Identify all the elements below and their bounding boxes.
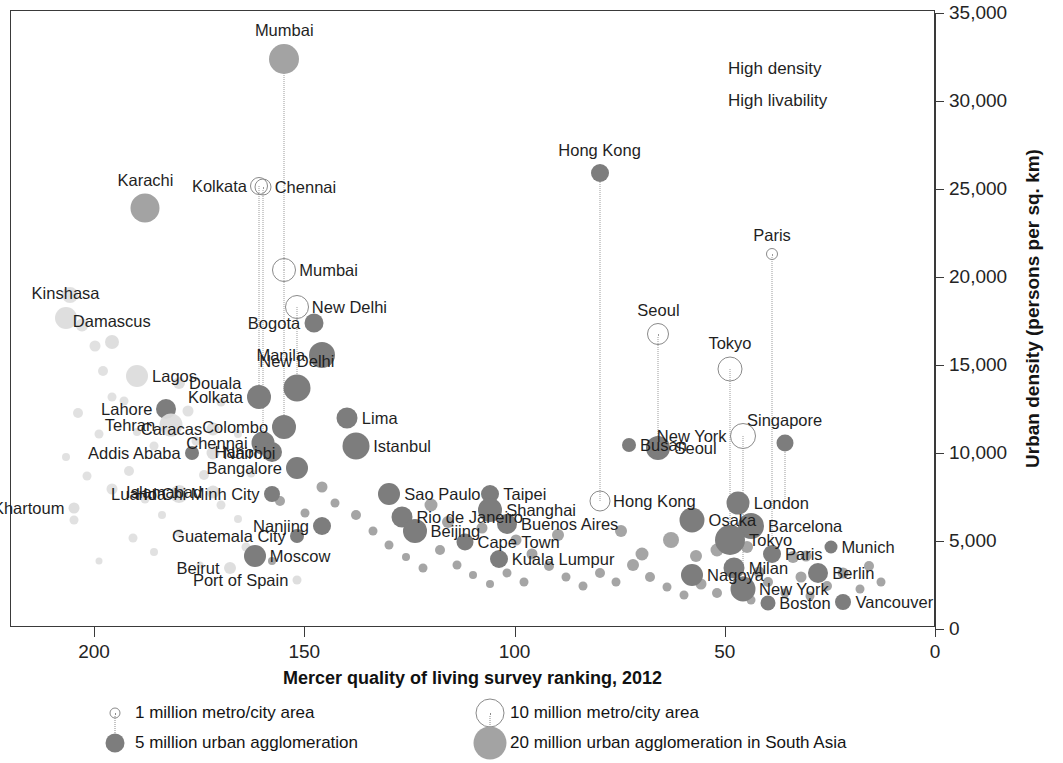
y-axis-tick [935, 189, 944, 190]
x-axis-title: Mercer quality of living survey ranking,… [10, 668, 935, 689]
y-axis-tick [935, 365, 944, 366]
y-axis-tick [935, 541, 944, 542]
legend-symbol [476, 699, 505, 728]
y-axis-tick [935, 13, 944, 14]
y-axis-tick-label: 30,000 [949, 90, 1007, 112]
legend-label: 20 million urban agglomeration in South … [510, 733, 846, 753]
x-axis-tick-label: 150 [288, 641, 320, 663]
legend-label: 5 million urban agglomeration [135, 733, 358, 753]
y-axis-tick-label: 25,000 [949, 178, 1007, 200]
y-axis-tick [935, 277, 944, 278]
y-axis-tick-label: 20,000 [949, 266, 1007, 288]
legend-bubble-icon [95, 700, 135, 726]
x-axis-tick-label: 100 [499, 641, 531, 663]
plot-area: MumbaiKarachiKolkataChennaiMumbaiNew Del… [10, 10, 935, 627]
x-axis-tick-label: 50 [714, 641, 735, 663]
x-axis-tick [935, 627, 936, 637]
legend-item-1[interactable]: 1 million metro/city area [95, 700, 315, 726]
legend-item-4[interactable]: 20 million urban agglomeration in South … [470, 730, 846, 756]
legend-symbol [474, 727, 507, 760]
x-axis-tick-label: 0 [930, 641, 941, 663]
x-axis-tick [515, 627, 516, 637]
y-axis-tick [935, 629, 944, 630]
legend-bubble-icon [470, 730, 510, 756]
legend-label: 1 million metro/city area [135, 703, 315, 723]
legend: 1 million metro/city area5 million urban… [95, 700, 995, 760]
x-axis-tick [725, 627, 726, 637]
y-axis-tick-label: 10,000 [949, 442, 1007, 464]
y-axis-tick-label: 35,000 [949, 2, 1007, 24]
annotation-high-density: High density [728, 58, 822, 81]
annotation-high-livability: High livability [728, 90, 827, 113]
legend-item-2[interactable]: 5 million urban agglomeration [95, 730, 358, 756]
y-axis-title: Urban density (persons per sq. km) [1016, 0, 1050, 617]
y-axis-tick [935, 453, 944, 454]
x-axis-tick [304, 627, 305, 637]
legend-label: 10 million metro/city area [510, 703, 699, 723]
x-axis-tick-label: 200 [78, 641, 110, 663]
y-axis-tick [935, 101, 944, 102]
y-axis-spine [935, 13, 936, 629]
legend-symbol [106, 734, 125, 753]
chart-root: MumbaiKarachiKolkataChennaiMumbaiNew Del… [0, 0, 1063, 763]
legend-item-3[interactable]: 10 million metro/city area [470, 700, 699, 726]
legend-bubble-icon [95, 730, 135, 756]
x-axis-tick [94, 627, 95, 637]
y-axis-tick-label: 0 [949, 618, 960, 640]
y-axis-tick-label: 5,000 [949, 530, 997, 552]
annotation-layer: High density High livability [11, 11, 936, 628]
y-axis-tick-label: 15,000 [949, 354, 1007, 376]
x-axis: 200150100500 [10, 627, 935, 667]
legend-bubble-icon [470, 700, 510, 726]
legend-symbol [110, 708, 121, 719]
